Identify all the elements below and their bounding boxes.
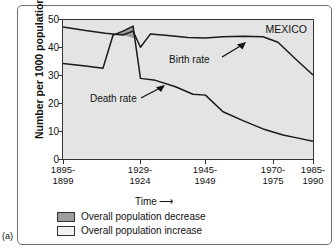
y-tick-label-30: 30 [37,70,59,81]
x-tick-label-2-line1: 1945- [182,165,228,176]
x-tick-label-0-line2: 1899 [40,176,86,187]
legend-item-increase: Overall population increase [57,224,206,237]
x-tick-label-4: 1985- 1990 [290,165,335,186]
legend-swatch-increase-icon [57,226,75,236]
time-arrow-icon: ⟶ [159,196,173,207]
legend-label-increase: Overall population increase [81,225,202,236]
y-tick-label-50: 50 [37,14,59,25]
panel-label: (a) [2,231,13,241]
x-tick-label-0-line1: 1895- [40,165,86,176]
figure-root: (a) Number per 1000 population 50 40 30 … [0,0,335,251]
x-axis-label: Time⟶ [135,196,173,207]
legend-swatch-decrease-icon [57,212,75,222]
death-rate-line [63,26,313,141]
y-tick-label-20: 20 [37,98,59,109]
x-tick-label-2-line2: 1949 [182,176,228,187]
legend-label-decrease: Overall population decrease [81,211,206,222]
x-tick-label-0: 1895- 1899 [40,165,86,186]
x-axis-label-text: Time [135,196,157,207]
x-tick-label-2: 1945- 1949 [182,165,228,186]
legend-item-decrease: Overall population decrease [57,210,206,223]
chart-container: Number per 1000 population 50 40 30 20 1… [17,5,330,243]
legend: Overall population decrease Overall popu… [57,210,206,238]
plot-svg [63,20,313,159]
death-rate-arrow-icon [139,84,167,101]
x-tick-label-4-line2: 1990 [290,176,335,187]
birth-rate-arrow-icon [220,41,248,59]
birth-rate-annotation-label: Birth rate [169,54,210,65]
x-tick-label-1-line1: 1929- [117,165,163,176]
death-rate-annotation-label: Death rate [90,93,137,104]
x-tick-label-1-line2: 1924 [117,176,163,187]
plot-area: MEXICO [62,19,314,160]
x-tick-label-1: 1929- 1924 [117,165,163,186]
death-rate-annotation: Death rate [90,93,137,104]
country-label: MEXICO [266,23,307,35]
x-tick-label-4-line1: 1985- [290,165,335,176]
y-tick-label-40: 40 [37,42,59,53]
birth-rate-annotation: Birth rate [169,54,210,65]
y-tick-label-10: 10 [37,126,59,137]
